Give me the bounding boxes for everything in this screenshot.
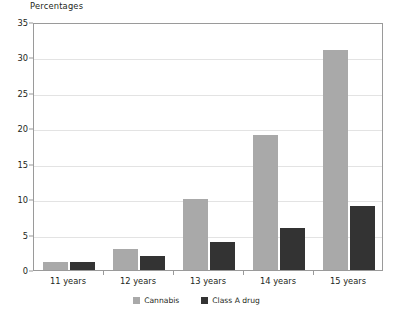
x-axis-tick <box>103 271 104 275</box>
legend-item: Cannabis <box>133 296 179 305</box>
y-axis-tick-label: 10 <box>17 195 28 205</box>
y-axis-tick-label: 0 <box>23 266 28 276</box>
x-axis-tick <box>313 271 314 275</box>
x-axis-tick <box>173 271 174 275</box>
y-axis-tick-label: 20 <box>17 124 28 134</box>
bar-chart: Percentages 05101520253035 11 years12 ye… <box>0 0 393 319</box>
bar-cannabis-13-years <box>183 199 208 270</box>
bar-class-a-drug-12-years <box>140 256 165 270</box>
x-axis-tick-label: 15 years <box>330 276 366 286</box>
y-axis-tick-label: 35 <box>17 18 28 28</box>
plot-area <box>33 23 383 271</box>
legend-label: Class A drug <box>212 296 260 305</box>
bar-cannabis-14-years <box>253 135 278 270</box>
legend-label: Cannabis <box>144 296 179 305</box>
x-axis-tick-label: 14 years <box>260 276 296 286</box>
x-axis-tick-label: 11 years <box>50 276 86 286</box>
x-axis-tick <box>243 271 244 275</box>
bars-layer <box>34 24 382 270</box>
y-axis-tick-label: 5 <box>23 231 28 241</box>
bar-class-a-drug-14-years <box>280 228 305 271</box>
bar-class-a-drug-13-years <box>210 242 235 270</box>
y-axis: 05101520253035 <box>0 23 28 271</box>
chart-legend: CannabisClass A drug <box>0 296 393 305</box>
bar-class-a-drug-11-years <box>70 262 95 270</box>
bar-cannabis-12-years <box>113 249 138 270</box>
chart-title: Percentages <box>30 1 83 11</box>
bar-class-a-drug-15-years <box>350 206 375 270</box>
bar-cannabis-15-years <box>323 50 348 270</box>
y-axis-tick-label: 15 <box>17 160 28 170</box>
x-axis-labels: 11 years12 years13 years14 years15 years <box>33 276 383 290</box>
cannabis-swatch <box>133 297 140 304</box>
bar-cannabis-11-years <box>43 262 68 271</box>
x-axis-tick-label: 12 years <box>120 276 156 286</box>
x-axis-tick-label: 13 years <box>190 276 226 286</box>
y-axis-tick-label: 25 <box>17 89 28 99</box>
legend-item: Class A drug <box>201 296 260 305</box>
y-axis-tick-label: 30 <box>17 53 28 63</box>
class-a-drug-swatch <box>201 297 208 304</box>
